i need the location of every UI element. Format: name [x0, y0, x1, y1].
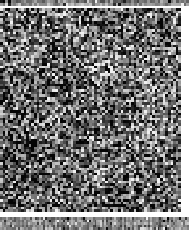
bottom-annotation-canvas [0, 217, 189, 230]
main-heatmap-matrix [0, 8, 181, 212]
heatmap-figure [0, 0, 189, 230]
main-heatmap-canvas [0, 8, 181, 212]
right-margin [181, 8, 189, 212]
bottom-annotation-strip [0, 217, 189, 230]
